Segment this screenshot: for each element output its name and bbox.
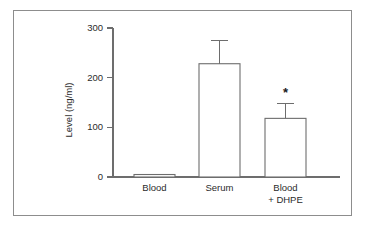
figure-container: 0 100 200 300 Level (ng/ml) * Blood Seru… (0, 0, 366, 230)
y-tick-label-0: 0 (98, 171, 103, 182)
chart-plot-area: 0 100 200 300 Level (ng/ml) * Blood Seru… (0, 0, 366, 230)
y-axis-title: Level (ng/ml) (63, 83, 74, 138)
significance-asterisk: * (283, 85, 289, 100)
bar-blood-dhpe (265, 118, 306, 177)
bar-chart-svg: 0 100 200 300 Level (ng/ml) * Blood Seru… (0, 0, 366, 230)
y-tick-label-100: 100 (87, 121, 103, 132)
x-label-blood: Blood (142, 182, 166, 193)
x-label-blood-dhpe-line1: Blood (273, 182, 297, 193)
x-label-blood-dhpe-line2: + DHPE (268, 194, 303, 205)
bar-blood (134, 175, 175, 177)
y-tick-label-200: 200 (87, 72, 103, 83)
x-label-serum: Serum (206, 182, 234, 193)
y-tick-label-300: 300 (87, 22, 103, 33)
bar-serum (199, 64, 240, 177)
